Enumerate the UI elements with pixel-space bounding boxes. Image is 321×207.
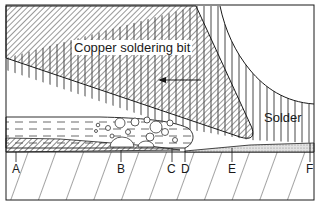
copper-bit-label: Copper soldering bit [72, 40, 192, 55]
point-f-label: F [306, 163, 313, 175]
solder-label: Solder [262, 110, 304, 125]
soldering-diagram: Copper soldering bit Solder A B C D E F [0, 0, 321, 207]
point-e-label: E [228, 163, 236, 175]
point-b-label: B [117, 163, 125, 175]
diagram-canvas [0, 0, 321, 207]
alloy-layer [185, 143, 314, 152]
base-metal [6, 152, 314, 200]
point-c-label: C [167, 163, 176, 175]
point-d-label: D [181, 163, 190, 175]
point-a-label: A [12, 163, 20, 175]
